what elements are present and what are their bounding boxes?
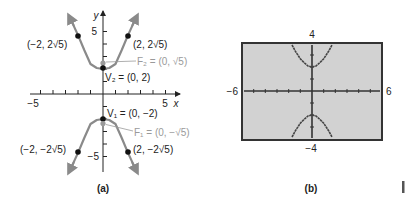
panel-a: −5 5 x y 5 −5 (−2, 2√5) (2, 2√5) (−2, −2… (20, 10, 190, 194)
upper-left-arrow-icon (69, 16, 74, 26)
f2-leader-line (106, 61, 136, 62)
caption-a: (a) (97, 183, 109, 194)
y-max-tick-label: 5 (91, 26, 97, 37)
window-ymax-label: 4 (309, 29, 315, 40)
vertex-v2-point (100, 65, 106, 71)
label-v2: V₂ = (0, 2) (105, 72, 150, 83)
lower-right-arrow-icon (132, 162, 137, 172)
lower-left-arrow-icon (69, 162, 74, 172)
focus-f1-point (100, 121, 105, 126)
label-lower-right: (2, −2√5) (133, 144, 173, 155)
x-min-tick-label: −5 (27, 98, 39, 109)
x-axis-label: x (173, 98, 180, 109)
y-axis-label: y (93, 10, 100, 21)
f1-leader-line (106, 125, 133, 132)
label-f2: F₂ = (0, √5) (137, 56, 187, 67)
label-f1: F₁ = (0, −√5) (134, 127, 190, 138)
label-lower-left: (−2, −2√5) (20, 144, 66, 155)
point-upper-right (125, 33, 131, 39)
label-v1: V₁ = (0, −2) (107, 108, 158, 119)
window-xmin-label: −6 (227, 86, 239, 97)
focus-f2-point (100, 60, 105, 65)
page-edge-mark (402, 181, 405, 193)
x-max-tick-label: 5 (162, 98, 168, 109)
upper-right-arrow-icon (132, 16, 137, 26)
figure: −5 5 x y 5 −5 (−2, 2√5) (2, 2√5) (−2, −2… (0, 0, 406, 207)
label-upper-right: (2, 2√5) (133, 39, 167, 50)
label-upper-left: (−2, 2√5) (27, 39, 67, 50)
point-lower-left (75, 149, 81, 155)
caption-b: (b) (305, 183, 318, 194)
panel-b: 4 −4 −6 6 (b) (227, 29, 392, 194)
point-upper-left (75, 33, 81, 39)
point-lower-right (125, 149, 131, 155)
window-ymin-label: −4 (305, 143, 317, 154)
y-min-tick-label: −5 (88, 151, 100, 162)
window-xmax-label: 6 (386, 86, 392, 97)
